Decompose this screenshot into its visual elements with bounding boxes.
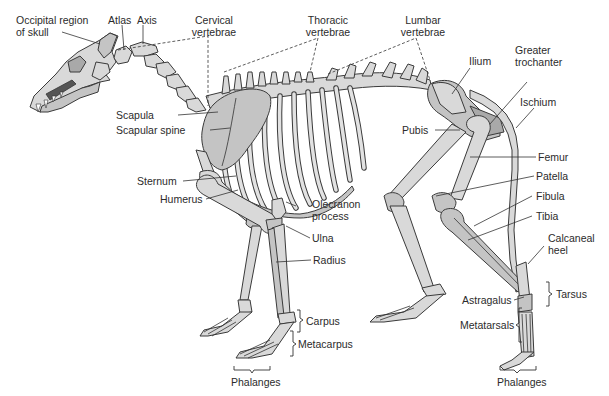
label-ulna: Ulna (312, 232, 334, 244)
label-femur: Femur (538, 151, 568, 163)
label-occipital-line2: of skull (16, 26, 88, 38)
label-occipital-region: Occipital region of skull (16, 14, 88, 38)
label-ilium: Ilium (469, 55, 491, 67)
label-olecranon-line1: Olecranon (312, 198, 360, 210)
label-axis: Axis (137, 14, 157, 26)
label-pubis: Pubis (402, 124, 428, 136)
dog-skeleton-diagram: Occipital region of skull Atlas Axis Cer… (0, 0, 609, 396)
label-phalanges-hind: Phalanges (497, 376, 547, 388)
label-olecranon-line2: process (312, 210, 360, 222)
label-thoracic-vertebrae: Thoracic vertebrae (300, 14, 356, 38)
label-tarsus: Tarsus (556, 288, 587, 300)
cervical-vertebrae (114, 42, 206, 112)
label-atlas: Atlas (108, 14, 131, 26)
label-greater-trochanter: Greater trochanter (515, 44, 562, 68)
label-calcaneal-line2: heel (548, 244, 595, 256)
label-olecranon-process: Olecranon process (312, 198, 360, 222)
label-occipital-line1: Occipital region (16, 14, 88, 26)
label-humerus: Humerus (160, 193, 203, 205)
label-cervical-line1: Cervical (186, 14, 242, 26)
label-lumbar-line2: vertebrae (395, 26, 451, 38)
label-cervical-line2: vertebrae (186, 26, 242, 38)
label-calcaneal-line1: Calcaneal (548, 232, 595, 244)
label-tibia: Tibia (536, 210, 558, 222)
label-lumbar-vertebrae: Lumbar vertebrae (395, 14, 451, 38)
label-radius: Radius (313, 254, 346, 266)
label-patella: Patella (536, 170, 568, 182)
skull (30, 33, 118, 112)
label-fibula: Fibula (536, 190, 565, 202)
label-thoracic-line2: vertebrae (300, 26, 356, 38)
label-lumbar-line1: Lumbar (395, 14, 451, 26)
pelvis (428, 80, 520, 292)
scapula (196, 89, 271, 174)
label-thoracic-line1: Thoracic (300, 14, 356, 26)
label-sternum: Sternum (137, 175, 177, 187)
label-greater-trochanter-line1: Greater (515, 44, 562, 56)
label-phalanges-fore: Phalanges (231, 376, 281, 388)
label-calcaneal-heel: Calcaneal heel (548, 232, 595, 256)
label-cervical-vertebrae: Cervical vertebrae (186, 14, 242, 38)
label-ischium: Ischium (520, 96, 556, 108)
label-metatarsals: Metatarsals (460, 319, 514, 331)
label-scapula: Scapula (116, 109, 154, 121)
label-metacarpus: Metacarpus (298, 338, 353, 350)
label-carpus: Carpus (306, 315, 340, 327)
label-scapular-spine: Scapular spine (116, 124, 185, 136)
label-astragalus: Astragalus (462, 294, 512, 306)
label-greater-trochanter-line2: trochanter (515, 56, 562, 68)
